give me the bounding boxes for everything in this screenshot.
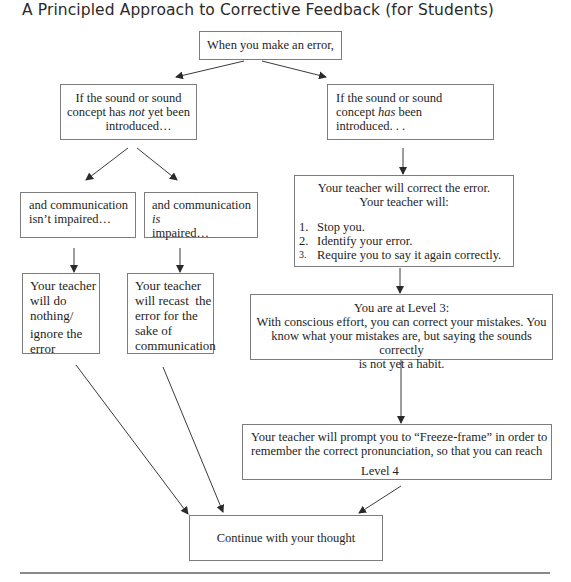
node-text-line: sake of: [135, 323, 213, 338]
node-start: When you make an error,: [199, 31, 342, 60]
step-number: 3.: [299, 248, 317, 262]
node-introduced: If the sound or sound concept has been i…: [327, 84, 494, 140]
arrow-start-to-not-introduced: [176, 61, 244, 77]
node-text-line: Your teacher: [135, 278, 213, 293]
node-do-nothing: Your teacher will do nothing/ ignore the…: [22, 273, 100, 354]
step-text: Require you to say it again correctly.: [317, 248, 501, 262]
node-text-line: Your teacher: [30, 278, 99, 293]
node-level3: You are at Level 3: With conscious effor…: [250, 294, 553, 360]
node-text-line: will do: [30, 293, 99, 308]
node-continue-text: Continue with your thought: [190, 531, 382, 545]
node-text-line: Your teacher will prompt you to “Freeze-…: [251, 430, 551, 444]
node-text-line: With conscious effort, you can correct y…: [251, 315, 552, 329]
node-text-line: will recast the: [135, 293, 213, 308]
text-segment: and communication: [152, 198, 251, 212]
step-item: 2.Identify your error.: [299, 234, 513, 248]
node-text-line: concept has not yet been: [61, 105, 196, 119]
node-text-line: introduced. . .: [336, 119, 493, 133]
step-text: Stop you.: [317, 220, 365, 234]
node-text-line: concept has been: [336, 105, 493, 119]
node-text-line: is not yet a habit.: [251, 357, 552, 371]
step-number: 1.: [299, 220, 317, 234]
text-segment: concept: [336, 105, 378, 119]
node-text-line: and communication: [29, 198, 135, 212]
text-segment: concept has: [67, 105, 129, 119]
emphasis-text: not: [129, 105, 145, 119]
text-segment: been: [395, 105, 422, 119]
arrow-start-to-introduced: [262, 61, 326, 77]
step-number: 2.: [299, 234, 317, 248]
node-freeze-frame: Your teacher will prompt you to “Freeze-…: [242, 424, 552, 480]
node-start-text: When you make an error,: [200, 38, 341, 52]
arrow-to-impaired: [137, 148, 177, 180]
correction-steps-list: 1.Stop you. 2.Identify your error. 3.Req…: [299, 220, 513, 262]
step-item: 3.Require you to say it again correctly.: [299, 248, 513, 262]
node-text-line: error for the: [135, 308, 213, 323]
arrow-to-not-impaired: [86, 148, 128, 180]
step-text: Identify your error.: [317, 234, 412, 248]
arrow-recast-to-continue: [163, 367, 223, 512]
emphasis-text: is: [152, 212, 160, 226]
node-text-line: error: [30, 341, 99, 356]
node-text-line: impaired…: [152, 226, 257, 240]
node-text-line: If the sound or sound: [336, 91, 493, 105]
node-impaired: and communication is impaired…: [144, 192, 258, 238]
node-text-line: nothing/: [30, 308, 99, 323]
node-recast: Your teacher will recast the error for t…: [127, 273, 214, 354]
emphasis-text: has: [378, 105, 395, 119]
node-continue: Continue with your thought: [189, 515, 383, 561]
node-text-line: Level 4: [251, 464, 551, 478]
node-not-impaired: and communication isn’t impaired…: [20, 192, 136, 238]
bottom-divider: [20, 572, 550, 574]
node-text-line: and communication is: [152, 198, 257, 226]
node-text-line: remember the correct pronunciation, so t…: [251, 444, 551, 458]
node-text-line: introduced…: [61, 119, 196, 133]
node-text-line: You are at Level 3:: [251, 301, 552, 315]
node-text-line: If the sound or sound: [61, 91, 196, 105]
step-item: 1.Stop you.: [299, 220, 513, 234]
node-text-line: Your teacher will correct the error.: [299, 181, 513, 195]
arrow-freeze-frame-to-continue: [359, 486, 401, 513]
node-text-line: ignore the: [30, 326, 99, 341]
node-not-introduced: If the sound or sound concept has not ye…: [60, 84, 197, 140]
node-text-line: Your teacher will:: [299, 195, 513, 209]
text-segment: yet been: [145, 105, 190, 119]
node-teacher-correct: Your teacher will correct the error. You…: [294, 175, 514, 267]
node-text-line: isn’t impaired…: [29, 212, 135, 226]
node-text-line: communication: [135, 338, 213, 353]
node-text-line: know what your mistakes are, but saying …: [251, 329, 552, 357]
